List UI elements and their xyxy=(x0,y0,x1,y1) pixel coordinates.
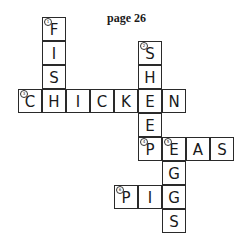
crossword-cell[interactable]: G xyxy=(162,185,186,209)
crossword-cell[interactable]: E xyxy=(138,113,162,137)
crossword-cell[interactable]: S xyxy=(210,137,234,161)
crossword-cell[interactable]: A xyxy=(186,137,210,161)
cell-letter: S xyxy=(169,213,179,231)
crossword-cell[interactable]: H xyxy=(138,65,162,89)
cell-letter: S xyxy=(49,69,59,87)
crossword-cell[interactable]: C xyxy=(90,89,114,113)
cell-letter: H xyxy=(144,69,155,87)
crossword-cell[interactable]: P6 xyxy=(114,185,138,209)
crossword-cell[interactable]: E xyxy=(138,89,162,113)
cell-letter: A xyxy=(193,141,203,159)
cell-letter: E xyxy=(145,93,154,111)
clue-number: 3 xyxy=(20,90,28,98)
crossword-cell[interactable]: G xyxy=(162,161,186,185)
crossword-cell[interactable]: C3 xyxy=(18,89,42,113)
clue-number: 1 xyxy=(44,18,52,26)
crossword-cell[interactable]: I xyxy=(138,185,162,209)
crossword-cell[interactable]: S2 xyxy=(138,41,162,65)
page-title: page 26 xyxy=(107,11,146,26)
crossword-cell[interactable]: S xyxy=(42,65,66,89)
cell-letter: N xyxy=(168,93,179,111)
crossword-cell[interactable]: I xyxy=(42,41,66,65)
crossword-cell[interactable]: E5 xyxy=(162,137,186,161)
cell-letter: I xyxy=(76,93,80,111)
cell-letter: G xyxy=(168,165,180,183)
crossword-cell[interactable]: S xyxy=(162,209,186,233)
cell-letter: K xyxy=(121,93,131,111)
clue-number: 5 xyxy=(164,138,172,146)
cell-letter: I xyxy=(148,189,152,207)
crossword-cell[interactable]: F1 xyxy=(42,17,66,41)
crossword-cell[interactable]: I xyxy=(66,89,90,113)
cell-letter: G xyxy=(168,189,180,207)
cell-letter: I xyxy=(52,45,56,63)
cell-letter: C xyxy=(97,93,107,111)
crossword-cell[interactable]: K xyxy=(114,89,138,113)
crossword-cell[interactable]: N xyxy=(162,89,186,113)
clue-number: 6 xyxy=(116,186,124,194)
crossword-cell[interactable]: H xyxy=(42,89,66,113)
cell-letter: H xyxy=(48,93,59,111)
clue-number: 2 xyxy=(140,42,148,50)
cell-letter: S xyxy=(217,141,227,159)
cell-letter: E xyxy=(145,117,154,135)
clue-number: 4 xyxy=(140,138,148,146)
crossword-cell[interactable]: P4 xyxy=(138,137,162,161)
